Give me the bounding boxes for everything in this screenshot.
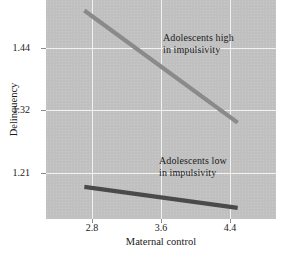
- y-axis-title: Delinquency: [8, 50, 19, 170]
- annotation-low-line1: Adolescents low: [159, 155, 227, 166]
- xtick-label-36: 3.6: [141, 222, 181, 233]
- annotation-high-impulsivity: Adolescents highin impulsivity: [163, 32, 234, 56]
- annotation-low-impulsivity: Adolescents lowin impulsivity: [159, 155, 227, 179]
- ytick-mark-121: [41, 173, 46, 174]
- ytick-mark-132: [41, 110, 46, 111]
- series-line-high-impulsivity: [84, 11, 237, 123]
- annotation-low-line2: in impulsivity: [159, 167, 216, 178]
- plot-area: Adolescents highin impulsivity Adolescen…: [46, 0, 276, 219]
- series-line-low-impulsivity: [84, 187, 237, 208]
- annotation-high-line2: in impulsivity: [163, 44, 220, 55]
- delinquency-by-maternal-control-chart: Adolescents highin impulsivity Adolescen…: [0, 0, 281, 256]
- ytick-mark-144: [41, 48, 46, 49]
- annotation-high-line1: Adolescents high: [163, 32, 234, 43]
- x-axis-title: Maternal control: [46, 236, 276, 247]
- series-layer: [46, 0, 276, 219]
- xtick-label-44: 4.4: [210, 222, 250, 233]
- xtick-label-28: 2.8: [72, 222, 112, 233]
